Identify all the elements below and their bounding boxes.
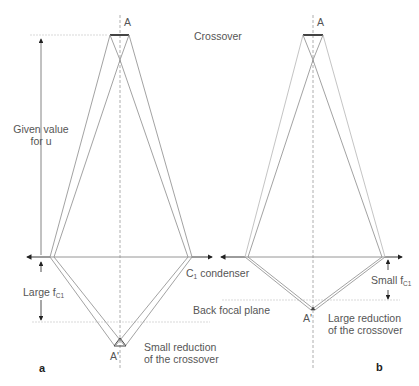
rays-upper-b bbox=[245, 35, 385, 257]
object-label-b: A bbox=[317, 16, 324, 28]
u-label-line2: for u bbox=[2, 135, 80, 147]
reduction-b-line2: of the crossover bbox=[328, 324, 403, 336]
focal-label-b-text: Small f bbox=[371, 274, 403, 286]
reduction-a-line2: of the crossover bbox=[144, 353, 219, 365]
focal-label-a-sub: C1 bbox=[56, 292, 64, 299]
reduction-label-a: Small reduction of the crossover bbox=[144, 341, 219, 365]
image-label-a: A' bbox=[110, 350, 119, 362]
focal-label-a-text: Large f bbox=[23, 286, 56, 298]
condenser-label-c: C bbox=[186, 267, 194, 279]
panel-b-letter: b bbox=[376, 361, 383, 373]
u-label-line1: Given value bbox=[2, 123, 80, 135]
condenser-label-text: condenser bbox=[197, 267, 249, 279]
panel-a bbox=[27, 15, 212, 368]
image-label-b: A' bbox=[303, 312, 312, 324]
reduction-label-b: Large reduction of the crossover bbox=[328, 312, 403, 336]
focal-label-b: Small fC1 bbox=[371, 274, 411, 290]
panel-a-letter: a bbox=[39, 362, 45, 374]
rays-lower-b bbox=[245, 257, 385, 310]
object-label-a: A bbox=[124, 16, 131, 28]
back-focal-plane-label: Back focal plane bbox=[193, 304, 270, 316]
condenser-label: C1 condenser bbox=[186, 267, 249, 283]
crossover-label: Crossover bbox=[194, 30, 242, 42]
focal-label-b-sub: C1 bbox=[403, 280, 411, 287]
reduction-b-line1: Large reduction bbox=[328, 312, 403, 324]
focal-label-a: Large fC1 bbox=[23, 286, 64, 302]
u-label: Given value for u bbox=[2, 123, 80, 147]
reduction-a-line1: Small reduction bbox=[144, 341, 219, 353]
rays-lower-a bbox=[50, 257, 192, 345]
